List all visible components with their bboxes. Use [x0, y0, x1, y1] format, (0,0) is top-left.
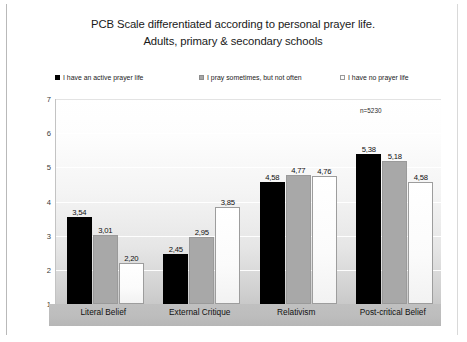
category-axis-label: Literal Belief [55, 307, 152, 317]
chart-legend: I have an active prayer life I pray some… [53, 72, 453, 86]
category-axis-label: Post-critical Belief [345, 307, 442, 317]
plot-area: 7654321n=52303,543,012,202,452,953,854,5… [55, 99, 441, 304]
bar[interactable]: 5,18 [382, 161, 407, 304]
category-axis-label: Relativism [248, 307, 345, 317]
bar-value-label: 4,58 [261, 173, 284, 182]
chart-card: PCB Scale differentiated according to pe… [6, 4, 458, 335]
bar[interactable]: 3,54 [67, 217, 92, 304]
chart-title: PCB Scale differentiated according to pe… [7, 16, 459, 49]
chart-title-line-1: PCB Scale differentiated according to pe… [7, 16, 459, 33]
y-axis-tick-label: 3 [47, 231, 51, 240]
y-axis-tick-label: 5 [47, 163, 51, 172]
bar[interactable]: 5,38 [356, 154, 381, 304]
legend-label: I pray sometimes, but not often [207, 72, 302, 83]
y-axis-tick-label: 6 [47, 129, 51, 138]
bar[interactable]: 2,20 [119, 263, 144, 304]
bar-value-label: 4,77 [287, 166, 310, 175]
bar-value-label: 2,45 [164, 245, 187, 254]
bar-value-label: 5,18 [383, 152, 406, 161]
bar[interactable]: 4,77 [286, 175, 311, 304]
bar-value-label: 4,58 [409, 173, 432, 182]
bar-group: 3,543,012,20 [67, 99, 144, 304]
y-axis-tick-label: 7 [47, 95, 51, 104]
plot-wrapper: 7654321n=52303,543,012,202,452,953,854,5… [49, 96, 441, 308]
bar-value-label: 4,76 [313, 167, 336, 176]
bar[interactable]: 3,85 [215, 207, 240, 304]
category-axis: Literal BeliefExternal CritiqueRelativis… [49, 304, 441, 326]
bar[interactable]: 2,45 [163, 254, 188, 304]
legend-swatch-icon [199, 75, 204, 80]
bar-group: 5,385,184,58 [356, 99, 433, 304]
legend-swatch-icon [55, 75, 60, 80]
legend-label: I have no prayer life [348, 72, 409, 83]
bar-value-label: 3,54 [68, 208, 91, 217]
bar-value-label: 2,95 [190, 228, 213, 237]
legend-swatch-icon [340, 75, 345, 80]
bar-group: 4,584,774,76 [260, 99, 337, 304]
slide-canvas: PCB Scale differentiated according to pe… [0, 0, 467, 342]
legend-item-sometimes-prayer[interactable]: I pray sometimes, but not often [199, 72, 302, 83]
bar[interactable]: 2,95 [189, 237, 214, 304]
bar[interactable]: 4,76 [312, 176, 337, 304]
bar-value-label: 5,38 [357, 145, 380, 154]
bar-group: 2,452,953,85 [163, 99, 240, 304]
bar[interactable]: 4,58 [408, 182, 433, 304]
y-axis-tick-label: 2 [47, 265, 51, 274]
y-axis-tick-label: 4 [47, 197, 51, 206]
legend-label: I have an active prayer life [63, 72, 143, 83]
category-axis-label: External Critique [152, 307, 249, 317]
bar-value-label: 3,85 [216, 198, 239, 207]
bar-value-label: 3,01 [94, 226, 117, 235]
bar-value-label: 2,20 [120, 254, 143, 263]
bar[interactable]: 4,58 [260, 182, 285, 304]
legend-item-no-prayer[interactable]: I have no prayer life [340, 72, 409, 83]
chart-title-line-2: Adults, primary & secondary schools [7, 33, 459, 50]
legend-item-active-prayer[interactable]: I have an active prayer life [55, 72, 143, 83]
bar[interactable]: 3,01 [93, 235, 118, 304]
